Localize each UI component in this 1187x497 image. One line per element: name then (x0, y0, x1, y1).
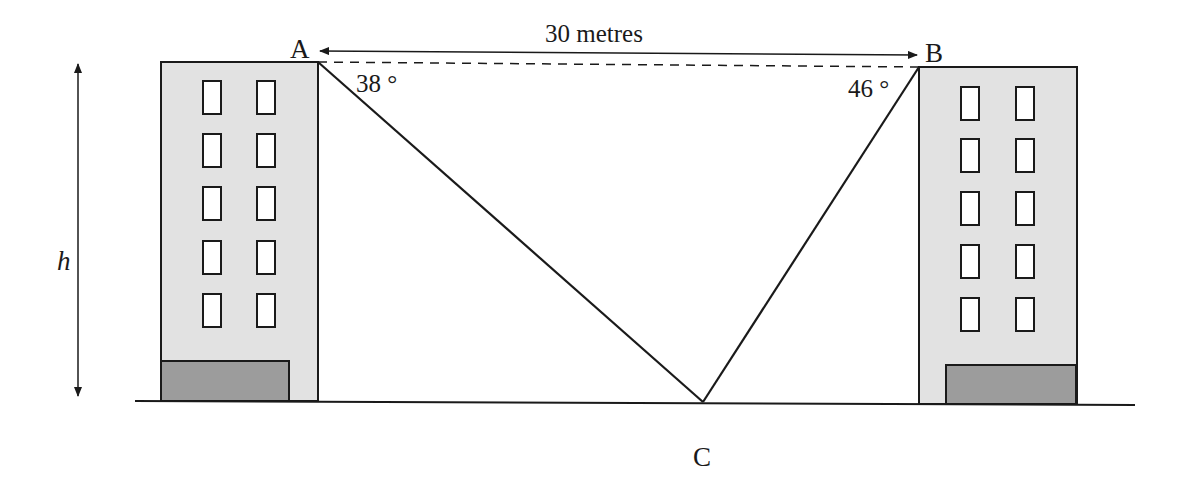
window (961, 87, 979, 120)
window (257, 134, 275, 167)
distance-label: 30 metres (545, 20, 643, 47)
line-of-sight-ac (318, 62, 703, 402)
window (257, 187, 275, 220)
window (1016, 192, 1034, 225)
right-building-body (919, 67, 1077, 404)
diagram-canvas: A B C 30 metres 38 ° 46 ° h (0, 0, 1187, 497)
window (203, 187, 221, 220)
window (1016, 139, 1034, 172)
distance-arrow (320, 51, 917, 55)
right-building-annex (946, 365, 1076, 404)
left-building (161, 62, 318, 401)
window (203, 134, 221, 167)
window (257, 294, 275, 327)
line-of-sight-bc (703, 67, 919, 402)
window (203, 81, 221, 114)
angle-b-label: 46 ° (848, 75, 889, 102)
height-label: h (57, 246, 71, 276)
left-building-body (161, 62, 318, 401)
window (1016, 245, 1034, 278)
angle-a-label: 38 ° (356, 70, 397, 97)
window (257, 241, 275, 274)
horizontal-dashed-line (318, 62, 919, 67)
window (1016, 298, 1034, 331)
right-building (919, 67, 1077, 404)
window (1016, 87, 1034, 120)
window (961, 192, 979, 225)
window (203, 241, 221, 274)
window (961, 139, 979, 172)
left-building-annex (161, 361, 289, 401)
window (203, 294, 221, 327)
point-c-label: C (693, 442, 711, 472)
window (961, 298, 979, 331)
point-b-label: B (925, 38, 943, 68)
window (961, 245, 979, 278)
point-a-label: A (290, 34, 310, 64)
window (257, 81, 275, 114)
